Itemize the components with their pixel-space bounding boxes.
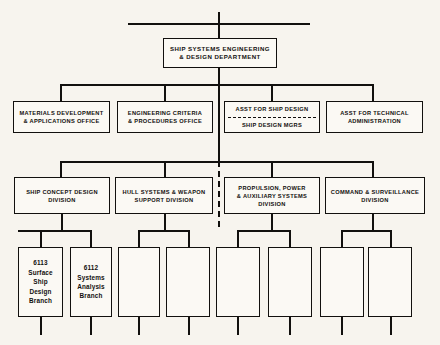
staff-box-asst-for-ship-design[interactable]: ASST FOR SHIP DESIGN SHIP DESIGN MGRS xyxy=(224,101,320,133)
branch-drop-1 xyxy=(40,230,42,247)
branch-stub-6 xyxy=(289,317,291,335)
branch-drop-8 xyxy=(390,230,392,247)
branch-bar-group-1 xyxy=(18,230,92,232)
branch-box-4[interactable] xyxy=(166,247,210,317)
division-drop-4 xyxy=(372,161,374,177)
branch-stub-8 xyxy=(390,317,392,335)
branch-bar-group-4 xyxy=(341,230,392,232)
org-chart: SHIP SYSTEMS ENGINEERING & DESIGN DEPART… xyxy=(0,0,440,345)
staff-2-line-1: ENGINEERING CRITERIA xyxy=(118,109,212,117)
branch-drop-3 xyxy=(138,230,140,247)
central-spine xyxy=(218,68,220,161)
division-drop-1 xyxy=(60,161,62,177)
branch-stub-4 xyxy=(188,317,190,335)
branch-drop-4 xyxy=(188,230,190,247)
division-2-line-1: HULL SYSTEMS & WEAPON xyxy=(116,188,212,196)
branch-2-line-1: Systems xyxy=(71,273,111,282)
root-title-line-1: SHIP SYSTEMS ENGINEERING xyxy=(164,45,276,53)
branch-stub-7 xyxy=(341,317,343,335)
division-box-hull-systems-weapon-support-division[interactable]: HULL SYSTEMS & WEAPON SUPPORT DIVISION xyxy=(115,177,213,214)
branch-stem-group-1 xyxy=(61,214,63,231)
branch-box-6[interactable] xyxy=(268,247,312,317)
ship-design-mgrs-label: SHIP DESIGN MGRS xyxy=(225,121,319,129)
division-box-ship-concept-design-division[interactable]: SHIP CONCEPT DESIGN DIVISION xyxy=(14,177,110,214)
staff-2-line-2: & PROCEDURES OFFICE xyxy=(118,117,212,125)
staff-4-line-1: ASST FOR TECHNICAL xyxy=(327,109,422,117)
branch-stem-group-3 xyxy=(271,214,273,231)
branch-box-7[interactable] xyxy=(320,247,364,317)
branch-2-line-3: Branch xyxy=(71,291,111,300)
branch-drop-7 xyxy=(341,230,343,247)
branch-2-line-2: Analysis xyxy=(71,282,111,291)
root-stem-up xyxy=(218,12,220,40)
branch-bar-group-3 xyxy=(237,230,290,232)
branch-drop-5 xyxy=(237,230,239,247)
asst-ship-design-label: ASST FOR SHIP DESIGN xyxy=(225,105,319,113)
branch-stub-2 xyxy=(90,317,92,335)
staff-distribution-bar xyxy=(60,84,373,86)
branch-1-line-1: Surface xyxy=(19,268,62,277)
branch-drop-6 xyxy=(289,230,291,247)
division-3-line-3: DIVISION xyxy=(225,200,319,208)
division-drop-2 xyxy=(164,161,166,177)
staff-box-materials-development-applications-office[interactable]: MATERIALS DEVELOPMENT & APPLICATIONS OFF… xyxy=(13,101,110,133)
branch-1-line-3: Design xyxy=(19,287,62,296)
staff-1-line-1: MATERIALS DEVELOPMENT xyxy=(14,109,109,117)
branch-box-3[interactable] xyxy=(118,247,160,317)
branch-box-6112-systems-analysis-branch[interactable]: 6112 Systems Analysis Branch xyxy=(70,247,112,317)
branch-stub-3 xyxy=(138,317,140,335)
staff-drop-1 xyxy=(60,84,62,101)
branch-stem-group-4 xyxy=(372,214,374,231)
branch-box-6113-surface-ship-design-branch[interactable]: 6113 Surface Ship Design Branch xyxy=(18,247,63,317)
branch-bar-group-2 xyxy=(138,230,190,232)
branch-box-5[interactable] xyxy=(216,247,260,317)
division-drop-3 xyxy=(271,161,273,177)
division-box-propulsion-power-auxiliary-systems-division[interactable]: PROPULSION, POWER & AUXILIARY SYSTEMS DI… xyxy=(224,177,320,214)
branch-drop-2 xyxy=(90,230,92,247)
division-4-line-1: COMMAND & SURVEILLANCE xyxy=(326,188,424,196)
branch-1-line-2: Ship xyxy=(19,277,62,286)
staff-1-line-2: & APPLICATIONS OFFICE xyxy=(14,117,109,125)
division-1-line-1: SHIP CONCEPT DESIGN xyxy=(15,188,109,196)
branch-stub-1 xyxy=(40,317,42,335)
branch-stem-group-2 xyxy=(164,214,166,231)
division-3-line-2: & AUXILIARY SYSTEMS xyxy=(225,192,319,200)
staff-drop-3 xyxy=(271,84,273,101)
asst-ship-design-dashed-divider xyxy=(228,117,316,118)
division-box-command-surveillance-division[interactable]: COMMAND & SURVEILLANCE DIVISION xyxy=(325,177,425,214)
branch-1-code: 6113 xyxy=(19,258,62,267)
division-4-line-2: DIVISION xyxy=(326,196,424,204)
staff-4-line-2: ADMINISTRATION xyxy=(327,117,422,125)
staff-drop-2 xyxy=(164,84,166,101)
branch-1-line-4: Branch xyxy=(19,296,62,305)
branch-stub-5 xyxy=(237,317,239,335)
division-distribution-bar xyxy=(60,161,373,163)
division-3-line-1: PROPULSION, POWER xyxy=(225,184,319,192)
staff-box-engineering-criteria-procedures-office[interactable]: ENGINEERING CRITERIA & PROCEDURES OFFICE xyxy=(117,101,213,133)
staff-drop-4 xyxy=(372,84,374,101)
branch-2-code: 6112 xyxy=(71,263,111,272)
branch-box-8[interactable] xyxy=(368,247,412,317)
root-box-ship-systems-engineering-design-department[interactable]: SHIP SYSTEMS ENGINEERING & DESIGN DEPART… xyxy=(163,38,277,68)
division-2-line-2: SUPPORT DIVISION xyxy=(116,196,212,204)
division-1-line-2: DIVISION xyxy=(15,196,109,204)
staff-box-asst-for-technical-administration[interactable]: ASST FOR TECHNICAL ADMINISTRATION xyxy=(326,101,423,133)
organizational-dashed-separator xyxy=(218,161,220,227)
root-title-line-2: & DESIGN DEPARTMENT xyxy=(164,53,276,61)
